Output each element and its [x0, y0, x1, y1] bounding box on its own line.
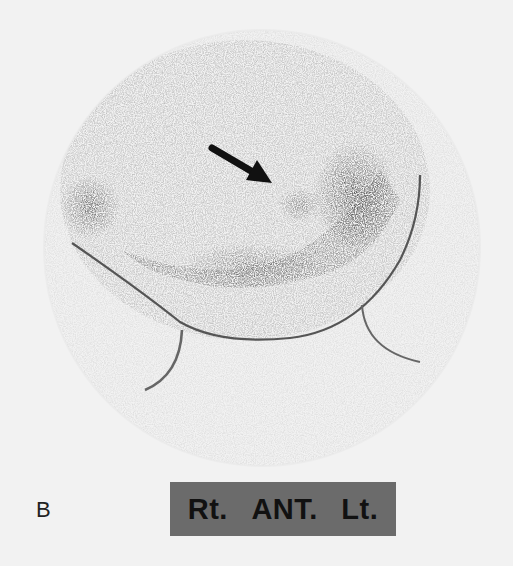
orientation-view-label: ANT. [251, 493, 317, 526]
scintigraphy-figure: B Rt. ANT. Lt. [0, 0, 513, 566]
panel-label: B [36, 497, 51, 523]
orientation-right-label: Rt. [188, 493, 228, 526]
orientation-label-bar: Rt. ANT. Lt. [170, 482, 396, 536]
orientation-left-label: Lt. [341, 493, 378, 526]
field-of-view [44, 30, 480, 466]
